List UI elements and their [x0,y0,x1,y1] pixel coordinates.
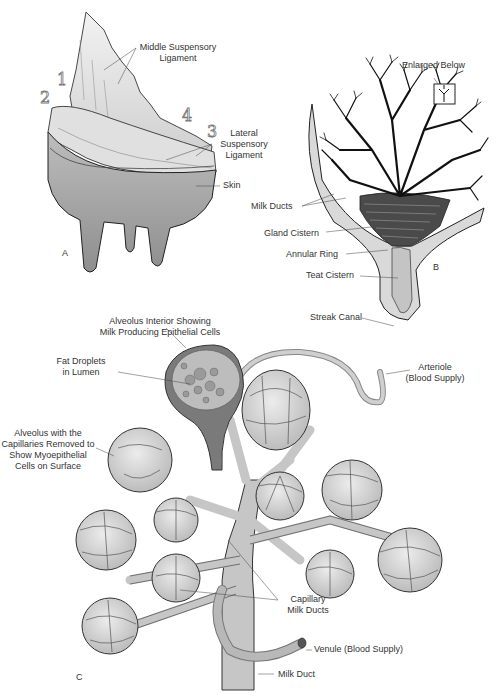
label-line: Show Myoepithelial [0,450,96,461]
label-line: Milk Ducts [280,605,336,616]
label-alveolus-interior: Alveolus Interior Showing Milk Producing… [90,316,230,338]
marker-1: 1 [57,70,67,89]
label-line: Milk Producing Epithelial Cells [90,327,230,338]
panel-b-gland-section [302,55,488,326]
label-line: Fat Droplets [46,356,116,367]
marker-2: 2 [40,88,50,107]
label-line: Ligament [218,150,270,161]
alveoli [76,370,442,654]
panel-c-alveoli-cluster [76,328,442,690]
label-line: Ligament [138,53,218,64]
label-gland-cistern: Gland Cistern [264,228,319,239]
label-line: Capillaries Removed to [0,439,96,450]
marker-4: 4 [182,106,192,125]
label-skin: Skin [223,180,241,191]
label-streak-canal: Streak Canal [310,312,362,323]
alveolus-interior [165,345,244,470]
label-line: Suspensory [218,139,270,150]
milk-duct-tree [320,55,488,200]
label-arteriole: Arteriole (Blood Supply) [402,362,468,384]
label-alveolus-capillaries-removed: Alveolus with the Capillaries Removed to… [0,428,96,472]
label-line: Middle Suspensory [138,42,218,53]
panel-label-c: C [76,672,83,682]
marker-3: 3 [207,122,217,141]
label-lateral-suspensory-ligament: Lateral Suspensory Ligament [218,128,270,161]
label-line: Alveolus Interior Showing [90,316,230,327]
label-line: Cells on Surface [0,461,96,472]
label-line: (Blood Supply) [402,373,468,384]
label-annular-ring: Annular Ring [286,249,338,260]
label-enlarged-below: Enlarged Below [402,60,465,71]
label-capillary-milk-ducts: Capillary Milk Ducts [280,594,336,616]
label-milk-ducts: Milk Ducts [251,201,293,212]
label-line: Alveolus with the [0,428,96,439]
label-line: Capillary [280,594,336,605]
panel-label-a: A [62,248,68,258]
label-milk-duct: Milk Duct [278,669,315,680]
label-middle-suspensory-ligament: Middle Suspensory Ligament [138,42,218,64]
label-line: Lateral [218,128,270,139]
label-teat-cistern: Teat Cistern [306,270,354,281]
mammary-anatomy-illustration [0,0,497,700]
panel-label-b: B [433,262,439,272]
label-line: in Lumen [46,367,116,378]
label-line: Arteriole [402,362,468,373]
label-fat-droplets: Fat Droplets in Lumen [46,356,116,378]
label-venule: Venule (Blood Supply) [314,644,403,655]
alveolus-removed-capillaries [108,428,172,492]
